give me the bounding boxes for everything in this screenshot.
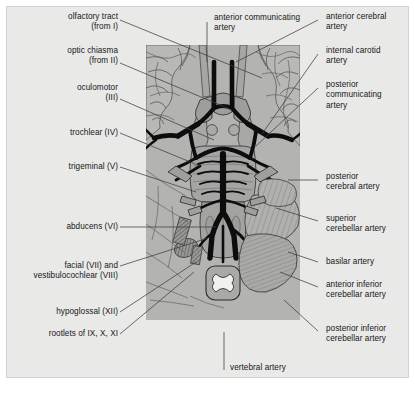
figure-root: olfactory tract (from I) optic chiasma (… <box>0 0 415 397</box>
label-basilar-artery: basilar artery <box>326 257 414 267</box>
label-posterior-inferior-cerebellar-artery: posterior inferior cerebellar artery <box>326 324 414 345</box>
label-abducens: abducens (VI) <box>8 222 118 232</box>
label-superior-cerebellar-artery: superior cerebellar artery <box>326 214 414 235</box>
label-facial-vestibulocochlear: facial (VII) and vestibulocochlear (VIII… <box>2 261 118 282</box>
label-anterior-inferior-cerebellar-artery: anterior inferior cerebellar artery <box>326 280 414 301</box>
label-oculomotor: oculomotor (III) <box>8 83 118 104</box>
spinal-cord-cross-section <box>206 266 240 300</box>
label-optic-chiasma: optic chiasma (from II) <box>8 46 118 67</box>
label-olfactory-tract: olfactory tract (from I) <box>8 12 118 33</box>
label-rootlets: rootlets of IX, X, XI <box>8 329 118 339</box>
label-anterior-cerebral-artery: anterior cerebral artery <box>326 12 414 33</box>
label-trigeminal: trigeminal (V) <box>8 162 118 172</box>
label-anterior-communicating-artery: anterior communicating artery <box>214 13 329 34</box>
label-internal-carotid-artery: internal carotid artery <box>326 46 414 67</box>
label-hypoglossal: hypoglossal (XII) <box>8 307 118 317</box>
label-vertebral-artery: vertebral artery <box>230 363 340 373</box>
label-posterior-communicating-artery: posterior communicating artery <box>326 80 414 111</box>
label-trochlear: trochlear (IV) <box>8 128 118 138</box>
label-posterior-cerebral-artery: posterior cerebral artery <box>326 172 414 193</box>
